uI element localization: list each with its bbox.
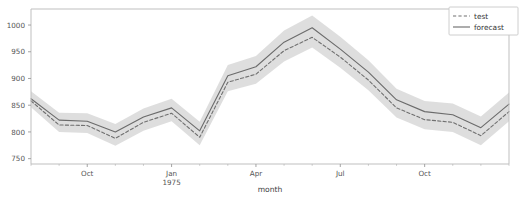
x-axis-title: month: [258, 185, 283, 194]
y-tick-label: 1000: [7, 21, 26, 30]
y-tick-label: 850: [11, 101, 25, 110]
x-tick-label: Oct: [81, 169, 94, 178]
y-tick-label: 750: [11, 154, 25, 163]
y-tick-label: 800: [11, 128, 25, 137]
y-tick-label: 900: [11, 74, 25, 83]
x-axis-ticks: OctJan1975AprJulOct: [31, 164, 509, 187]
x-tick-label: Apr: [250, 169, 262, 178]
x-tick-label: Jan: [165, 169, 177, 178]
legend-label-test: test: [474, 12, 488, 21]
chart-figure: 7508008509009501000 OctJan1975AprJulOct …: [0, 0, 524, 204]
x-tick-sublabel: 1975: [162, 178, 180, 187]
x-tick-label: Jul: [335, 169, 345, 178]
y-tick-label: 950: [11, 47, 25, 56]
plot-background: [31, 9, 509, 164]
y-axis-ticks: 7508008509009501000: [7, 21, 31, 164]
chart-canvas: 7508008509009501000 OctJan1975AprJulOct …: [0, 0, 524, 204]
chart-legend[interactable]: test forecast: [449, 7, 518, 35]
x-tick-label: Oct: [418, 169, 431, 178]
legend-label-forecast: forecast: [474, 23, 504, 32]
